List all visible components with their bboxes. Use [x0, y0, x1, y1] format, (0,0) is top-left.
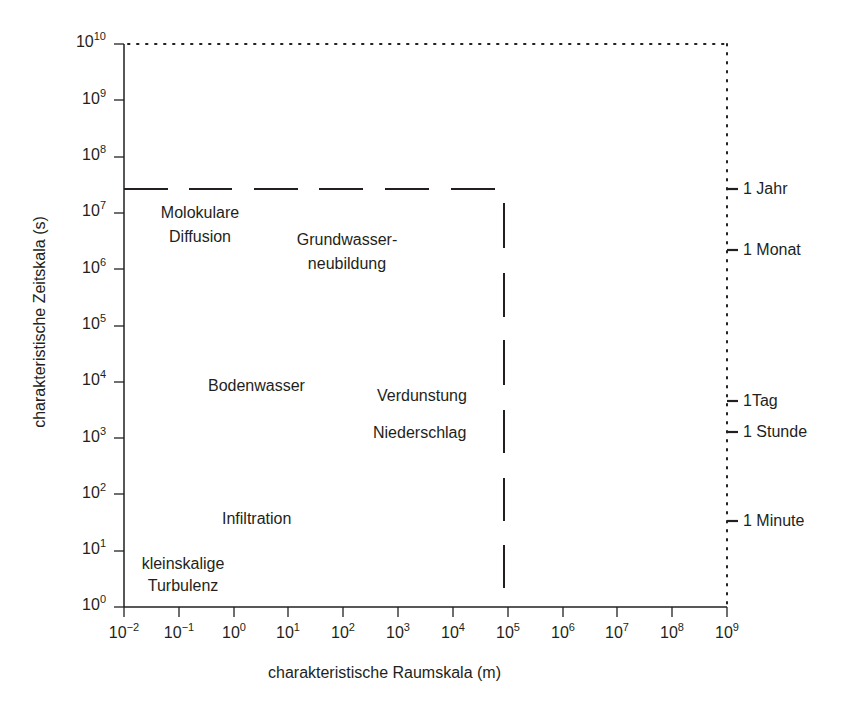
label-niederschlag: Niederschlag — [373, 423, 466, 442]
marker-1-tag: 1Tag — [743, 391, 778, 410]
marker-1-minute: 1 Minute — [743, 511, 804, 530]
x-tick-base: 10 — [331, 624, 349, 641]
label-kleinskalige-turbulenz: kleinskalige Turbulenz — [128, 554, 238, 595]
y-tick-base: 10 — [82, 596, 100, 613]
y-tick-base: 10 — [82, 371, 100, 388]
x-tick-base: 10 — [386, 624, 404, 641]
label-line: neubildung — [282, 254, 412, 273]
right-marker-ticks — [727, 189, 738, 521]
label-molekulare-diffusion: Molokulare Diffusion — [150, 203, 250, 246]
y-tick-exp: 5 — [100, 312, 106, 324]
label-grundwasserneubildung: Grundwasser- neubildung — [282, 230, 412, 273]
marker-1-jahr: 1 Jahr — [743, 179, 787, 198]
x-tick-label-11: 109 — [702, 624, 752, 642]
x-tick-exp: −2 — [127, 621, 140, 633]
x-tick-label-3: 101 — [263, 624, 313, 642]
y-tick-label-4: 104 — [46, 371, 106, 389]
y-tick-label-2: 102 — [46, 484, 106, 502]
y-tick-base: 10 — [82, 202, 100, 219]
label-line: Turbulenz — [128, 576, 238, 595]
y-tick-label-3: 103 — [46, 428, 106, 446]
y-tick-base: 10 — [82, 540, 100, 557]
x-ticks — [124, 607, 727, 617]
x-tick-exp: 3 — [404, 621, 410, 633]
x-tick-base: 10 — [109, 624, 127, 641]
y-tick-label-0: 100 — [46, 596, 106, 614]
x-tick-base: 10 — [496, 624, 514, 641]
y-tick-base: 10 — [76, 33, 94, 50]
x-tick-label-0: 10−2 — [99, 624, 149, 642]
x-tick-base: 10 — [164, 624, 182, 641]
x-tick-exp: 9 — [733, 621, 739, 633]
y-tick-label-8: 108 — [46, 146, 106, 164]
label-line: Diffusion — [150, 227, 250, 246]
y-tick-label-7: 107 — [46, 202, 106, 220]
x-tick-base: 10 — [715, 624, 733, 641]
y-tick-base: 10 — [82, 315, 100, 332]
y-tick-exp: 3 — [100, 425, 106, 437]
y-tick-base: 10 — [82, 259, 100, 276]
x-tick-label-1: 10−1 — [154, 624, 204, 642]
y-tick-exp: 8 — [100, 143, 106, 155]
x-tick-label-6: 104 — [428, 624, 478, 642]
x-tick-exp: 5 — [514, 621, 520, 633]
label-bodenwasser: Bodenwasser — [208, 376, 305, 395]
y-tick-label-1: 101 — [46, 540, 106, 558]
x-tick-exp: −1 — [182, 621, 195, 633]
y-tick-label-5: 105 — [46, 315, 106, 333]
marker-1-monat: 1 Monat — [743, 240, 801, 259]
x-tick-exp: 1 — [294, 621, 300, 633]
label-line: Molokulare — [150, 203, 250, 222]
x-tick-base: 10 — [441, 624, 459, 641]
y-tick-base: 10 — [82, 484, 100, 501]
x-tick-base: 10 — [660, 624, 678, 641]
label-line: Grundwasser- — [282, 230, 412, 249]
y-tick-exp: 4 — [100, 368, 106, 380]
y-ticks — [114, 44, 124, 607]
chart-canvas — [0, 0, 853, 716]
x-tick-base: 10 — [222, 624, 240, 641]
x-tick-base: 10 — [551, 624, 569, 641]
y-tick-base: 10 — [82, 146, 100, 163]
x-tick-exp: 7 — [623, 621, 629, 633]
label-infiltration: Infiltration — [222, 509, 291, 528]
x-tick-base: 10 — [605, 624, 623, 641]
x-tick-base: 10 — [276, 624, 294, 641]
x-tick-label-5: 103 — [373, 624, 423, 642]
y-tick-exp: 6 — [100, 256, 106, 268]
x-tick-label-8: 106 — [538, 624, 588, 642]
y-tick-exp: 10 — [94, 30, 106, 42]
y-tick-exp: 1 — [100, 537, 106, 549]
x-tick-exp: 4 — [459, 621, 465, 633]
y-tick-exp: 9 — [100, 87, 106, 99]
y-axis-title: charakteristische Zeitskala (s) — [31, 216, 49, 428]
x-tick-label-4: 102 — [318, 624, 368, 642]
x-tick-exp: 8 — [678, 621, 684, 633]
y-tick-label-6: 106 — [46, 259, 106, 277]
x-tick-exp: 6 — [569, 621, 575, 633]
y-tick-base: 10 — [82, 428, 100, 445]
y-tick-exp: 0 — [100, 593, 106, 605]
y-tick-exp: 2 — [100, 481, 106, 493]
y-tick-label-9: 109 — [46, 90, 106, 108]
label-line: kleinskalige — [128, 554, 238, 573]
y-tick-base: 10 — [82, 90, 100, 107]
label-verdunstung: Verdunstung — [377, 386, 467, 405]
y-tick-exp: 7 — [100, 199, 106, 211]
marker-1-stunde: 1 Stunde — [743, 422, 807, 441]
x-tick-label-10: 108 — [647, 624, 697, 642]
y-tick-label-10: 1010 — [46, 33, 106, 51]
x-tick-label-9: 107 — [592, 624, 642, 642]
x-tick-label-2: 100 — [209, 624, 259, 642]
x-axis-title: charakteristische Raumskala (m) — [268, 664, 501, 682]
x-tick-exp: 0 — [240, 621, 246, 633]
x-tick-label-7: 105 — [483, 624, 533, 642]
x-tick-exp: 2 — [349, 621, 355, 633]
